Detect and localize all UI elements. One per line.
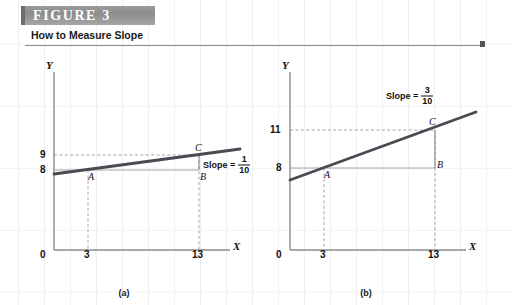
chart-panel-a: Y X 0 3 13 9 8 A B C Slope = 1 10 (a) [22, 60, 262, 300]
y-axis-label-a: Y [46, 59, 53, 71]
panel-caption-b: (b) [246, 288, 486, 298]
origin-label-a: 0 [40, 249, 46, 260]
x-axis-label-b: X [469, 240, 476, 252]
x-tick-13-a: 13 [192, 249, 203, 260]
slope-fraction-b: 3 10 [421, 86, 433, 106]
slope-text-b: Slope = [386, 91, 418, 101]
y-axis-label-b: Y [282, 59, 289, 71]
panel-caption-a: (a) [4, 288, 244, 298]
figure-number-label: FIGURE 3 [33, 8, 111, 24]
slope-numerator-a: 1 [241, 155, 248, 164]
point-label-b-b: B [437, 159, 443, 170]
point-label-c-a: C [195, 142, 202, 153]
slope-annotation-b: Slope = 3 10 [386, 86, 433, 106]
slope-denominator-a: 10 [238, 166, 250, 175]
point-label-a-b: A [324, 169, 330, 180]
x-tick-3-a: 3 [84, 249, 90, 260]
x-tick-13-b: 13 [428, 249, 439, 260]
slope-annotation-a: Slope = 1 10 [203, 155, 250, 175]
slope-denominator-b: 10 [421, 97, 433, 106]
y-tick-8-b: 8 [276, 162, 282, 173]
y-tick-11-b: 11 [270, 124, 281, 135]
plot-b-svg [258, 60, 498, 300]
point-label-a-a: A [88, 171, 94, 182]
x-axis-label-a: X [233, 240, 240, 252]
title-divider-endcap [480, 41, 485, 47]
title-divider [25, 45, 480, 46]
x-tick-3-b: 3 [320, 249, 326, 260]
figure-title: How to Measure Slope [31, 29, 143, 41]
plot-a-svg [22, 60, 262, 300]
slope-numerator-b: 3 [424, 86, 431, 95]
y-tick-8-a: 8 [40, 164, 46, 175]
y-tick-9-a: 9 [40, 149, 46, 160]
point-label-c-b: C [429, 116, 436, 127]
data-line-b [290, 112, 476, 180]
slope-text-a: Slope = [203, 160, 235, 170]
slope-fraction-a: 1 10 [238, 155, 250, 175]
chart-panel-b: Y X 0 3 13 11 8 A B C Slope = 3 10 (b) [258, 60, 498, 300]
origin-label-b: 0 [276, 249, 282, 260]
